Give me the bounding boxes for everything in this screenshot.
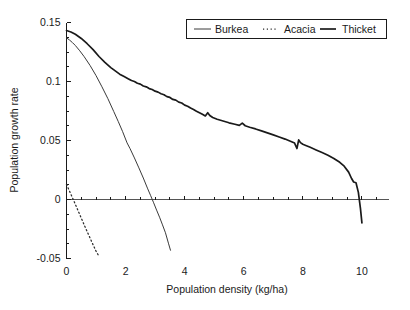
x-axis-tick-label: 8 [300, 265, 306, 277]
legend-label-acacia: Acacia [284, 23, 316, 35]
y-axis-tick-label: -0.05 [37, 252, 61, 264]
series-line-thicket [67, 31, 362, 223]
series-layer [67, 31, 362, 257]
y-axis-tick-label: 0.15 [40, 16, 61, 28]
legend-label-burkea: Burkea [215, 23, 248, 35]
x-axis-tick-label: 10 [356, 265, 368, 277]
chart-figure: -0.0500.050.10.150246810 Population dens… [0, 0, 410, 310]
y-axis-label: Population growth rate [8, 87, 20, 192]
x-axis-tick-label: 4 [182, 265, 188, 277]
x-axis-tick-label: 2 [123, 265, 129, 277]
y-axis-tick-label: 0.05 [40, 134, 61, 146]
y-axis-tick-label: 0 [55, 193, 61, 205]
axes-layer: -0.0500.050.10.150246810 [37, 16, 377, 276]
x-axis-tick-label: 6 [241, 265, 247, 277]
legend-label-thicket: Thicket [342, 23, 376, 35]
y-axis-tick-label: 0.1 [46, 75, 61, 87]
series-line-burkea [67, 38, 171, 250]
x-axis-label: Population density (kg/ha) [166, 283, 287, 295]
x-axis-tick-label: 0 [64, 265, 70, 277]
series-line-acacia [67, 184, 100, 256]
chart-canvas: -0.0500.050.10.150246810 Population dens… [0, 0, 410, 310]
chart-legend[interactable]: BurkeaAcaciaThicket [187, 20, 387, 39]
